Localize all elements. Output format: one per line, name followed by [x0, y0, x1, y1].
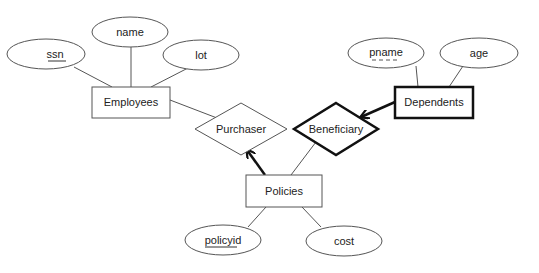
- connector-policyid-policies: [248, 207, 266, 227]
- arrow-dependents-beneficiary: [361, 102, 395, 117]
- attribute-ssn-label: ssn: [46, 48, 63, 60]
- relationship-beneficiary-label: Beneficiary: [309, 123, 364, 135]
- attribute-lot[interactable]: lot: [163, 40, 239, 70]
- attribute-lot-label: lot: [195, 49, 207, 61]
- entity-employees[interactable]: Employees: [92, 87, 170, 118]
- er-diagram-canvas: Employees Dependents Policies Purchaser …: [0, 0, 539, 273]
- attribute-pname[interactable]: pname: [348, 38, 424, 68]
- entity-dependents[interactable]: Dependents: [395, 87, 473, 118]
- attribute-name[interactable]: name: [92, 17, 168, 47]
- connector-pname-dependents: [416, 66, 418, 87]
- attribute-policyid-label: policyid: [205, 234, 242, 246]
- relationship-purchaser-label: Purchaser: [216, 123, 266, 135]
- arrow-policies-purchaser: [247, 150, 265, 175]
- connector-employees-purchaser: [170, 100, 217, 118]
- relationship-purchaser[interactable]: Purchaser: [195, 103, 287, 155]
- attribute-ssn[interactable]: ssn: [7, 39, 85, 69]
- connector-policies-beneficiary: [291, 138, 319, 175]
- attribute-name-label: name: [116, 26, 144, 38]
- attribute-cost[interactable]: cost: [306, 226, 382, 256]
- connector-lot-employees: [151, 68, 188, 87]
- entity-policies-label: Policies: [265, 185, 303, 197]
- attribute-age[interactable]: age: [440, 38, 518, 68]
- attribute-pname-label: pname: [369, 46, 403, 58]
- relationship-beneficiary[interactable]: Beneficiary: [294, 103, 378, 155]
- entity-employees-label: Employees: [104, 96, 159, 108]
- attribute-age-label: age: [470, 47, 488, 59]
- attribute-cost-label: cost: [334, 235, 354, 247]
- attribute-policyid[interactable]: policyid: [185, 225, 261, 255]
- entity-dependents-label: Dependents: [404, 96, 464, 108]
- connector-cost-policies: [302, 207, 321, 227]
- connector-age-dependents: [449, 66, 463, 87]
- connector-ssn-employees: [74, 67, 112, 87]
- entity-policies[interactable]: Policies: [246, 175, 322, 207]
